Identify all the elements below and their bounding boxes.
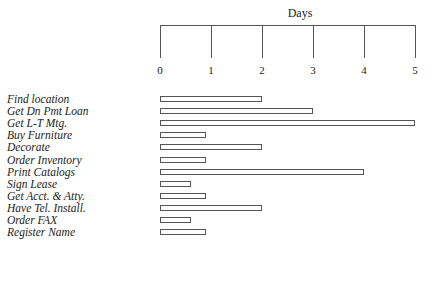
category-label: Order Inventory	[7, 154, 82, 166]
category-label: Decorate	[7, 141, 50, 153]
bar	[160, 96, 262, 102]
bar	[160, 169, 364, 175]
x-tick	[211, 25, 212, 58]
x-tick-label: 2	[252, 64, 272, 76]
bar	[160, 144, 262, 150]
category-label: Register Name	[7, 226, 75, 238]
x-tick-label: 3	[303, 64, 323, 76]
x-tick-label: 1	[201, 64, 221, 76]
bar	[160, 157, 206, 163]
category-label: Have Tel. Install.	[7, 202, 86, 214]
category-label: Get Dn Pmt Loan	[7, 105, 88, 117]
bar	[160, 181, 191, 187]
category-label: Print Catalogs	[7, 166, 75, 178]
category-label: Sign Lease	[7, 178, 57, 190]
category-label: Get Acct. & Atty.	[7, 190, 85, 202]
x-tick	[160, 25, 161, 58]
category-label: Order FAX	[7, 214, 57, 226]
bar	[160, 120, 415, 126]
x-tick-label: 0	[150, 64, 170, 76]
bar	[160, 217, 191, 223]
x-tick-label: 5	[405, 64, 425, 76]
x-axis-line	[160, 25, 415, 26]
category-label: Find location	[7, 93, 69, 105]
category-label: Buy Furniture	[7, 129, 72, 141]
x-axis-title: Days	[270, 6, 330, 21]
x-tick	[262, 25, 263, 58]
x-tick	[364, 25, 365, 58]
x-tick-label: 4	[354, 64, 374, 76]
bar	[160, 229, 206, 235]
x-tick	[313, 25, 314, 58]
x-tick	[415, 25, 416, 58]
bar	[160, 205, 262, 211]
bar	[160, 193, 206, 199]
bar	[160, 108, 313, 114]
bar	[160, 132, 206, 138]
category-label: Get L-T Mtg.	[7, 117, 67, 129]
